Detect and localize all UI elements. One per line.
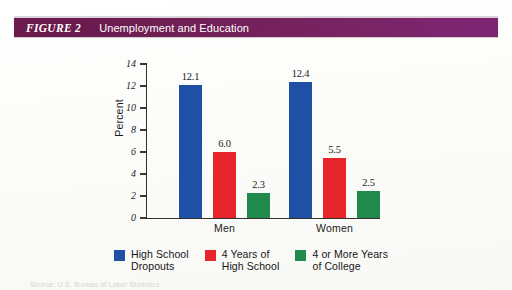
x-axis-group-label: Men: [179, 222, 270, 234]
bar-value-label: 12.1: [172, 71, 209, 82]
legend-swatch: [295, 250, 306, 261]
bar: [247, 193, 270, 218]
bar-chart: Percent 02468101214 12.16.02.312.45.52.5…: [0, 0, 512, 290]
legend-label: 4 or More Years of College: [312, 249, 388, 272]
legend-item: 4 Years of High School: [205, 249, 280, 272]
bar-value-label: 6.0: [206, 138, 243, 149]
source-note: Source: U.S. Bureau of Labor Statistics: [30, 281, 160, 290]
legend-swatch: [114, 250, 125, 261]
bar: [357, 191, 380, 219]
bar: [179, 85, 202, 218]
bar: [323, 158, 346, 219]
bar-value-label: 2.3: [240, 179, 277, 190]
legend-item: High School Dropouts: [114, 249, 189, 272]
legend-label: High School Dropouts: [131, 249, 189, 272]
x-axis-group-label: Women: [289, 222, 380, 234]
bar-value-label: 12.4: [282, 68, 319, 79]
bar: [213, 152, 236, 218]
legend-label: 4 Years of High School: [222, 249, 280, 272]
x-axis-line: [146, 218, 380, 219]
bar: [289, 82, 312, 218]
bar-value-label: 5.5: [316, 144, 353, 155]
legend-item: 4 or More Years of College: [295, 249, 388, 272]
legend-swatch: [205, 250, 216, 261]
bar-value-label: 2.5: [350, 177, 387, 188]
chart-legend: High School Dropouts4 Years of High Scho…: [114, 249, 404, 272]
